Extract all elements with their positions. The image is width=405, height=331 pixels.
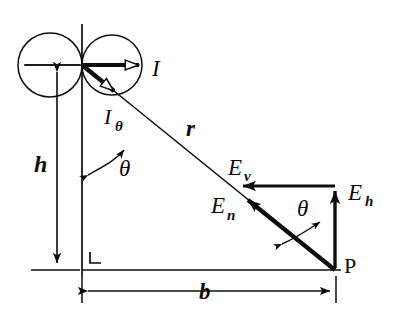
vector-diagram-svg: I I θ r θ h b P E v E n E h θ [0, 0, 405, 331]
label-current-I-theta-base: I [103, 104, 113, 129]
label-field-Eh-sub: h [365, 193, 373, 209]
label-field-Ev-sub: v [244, 168, 251, 184]
label-radius-r: r [186, 116, 196, 141]
label-point-P: P [344, 253, 356, 278]
label-angle-theta-lower: θ [297, 196, 308, 221]
label-dimension-h: h [34, 151, 47, 177]
current-vector-I-theta [82, 65, 114, 91]
label-dimension-b: b [199, 279, 211, 304]
label-field-En-sub: n [227, 207, 235, 223]
label-field-Ev-base: E [227, 155, 242, 180]
field-vector-En [248, 200, 335, 270]
label-current-I: I [151, 56, 161, 81]
label-current-I-theta-sub: θ [115, 118, 123, 134]
right-angle-marker-icon [90, 252, 101, 263]
label-field-En-base: E [210, 193, 225, 218]
figure-canvas: I I θ r θ h b P E v E n E h θ [0, 0, 405, 331]
label-angle-theta-upper: θ [119, 156, 130, 181]
label-field-Eh-base: E [347, 180, 362, 205]
